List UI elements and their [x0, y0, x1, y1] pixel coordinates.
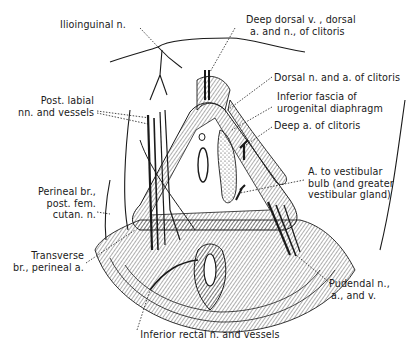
label-inferior-fascia: Inferior fascia of urogenital diaphragm [277, 91, 383, 114]
label-a-to-vestibular-bulb: A. to vestibular bulb (and greater vesti… [308, 166, 394, 201]
label-pudendal: Pudendal n., a., and v. [329, 278, 390, 301]
label-dorsal-n-and-a: Dorsal n. and a. of clitoris [274, 72, 400, 84]
label-deep-a-of-clitoris: Deep a. of clitoris [274, 120, 360, 132]
label-perineal-br: Perineal br., post. fem. cutan. n. [34, 186, 96, 221]
label-inferior-rectal: Inferior rectal n. and vessels [110, 329, 310, 341]
label-transverse-br: Transverse br., perineal a. [6, 250, 84, 273]
label-post-labial: Post. labial nn. and vessels [18, 95, 94, 118]
label-ilioinguinal-n: Ilioinguinal n. [60, 19, 126, 31]
label-deep-dorsal-v: Deep dorsal v. , dorsal a. and n., of cl… [246, 14, 356, 37]
anatomical-figure: Ilioinguinal n. Deep dorsal v. , dorsal … [0, 0, 413, 345]
